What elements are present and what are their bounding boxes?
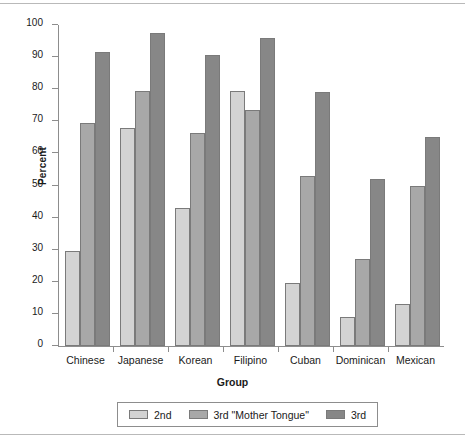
- bar-group: [395, 25, 440, 346]
- y-axis-tick-label: 10: [32, 306, 43, 317]
- y-axis-tick: 40: [52, 217, 58, 218]
- legend-item: 3rd: [326, 409, 366, 421]
- y-axis-tick: 60: [52, 152, 58, 153]
- chart-legend: 2nd3rd "Mother Tongue"3rd: [117, 402, 378, 427]
- bar-group: [340, 25, 385, 346]
- bar: [395, 304, 410, 346]
- x-axis-label: Group: [0, 376, 465, 388]
- legend-swatch-icon: [189, 410, 208, 419]
- legend-label: 3rd: [351, 409, 366, 421]
- bar: [425, 137, 440, 346]
- bar: [80, 123, 95, 346]
- legend-label: 3rd "Mother Tongue": [214, 409, 309, 421]
- x-axis-category-label: Japanese: [113, 354, 168, 366]
- y-axis-tick-label: 80: [32, 81, 43, 92]
- bar: [340, 317, 355, 346]
- y-axis-tick: 80: [52, 88, 58, 89]
- plot-area: 0102030405060708090100: [58, 25, 443, 346]
- chart-page: Percent 0102030405060708090100 Group 2nd…: [0, 0, 465, 444]
- bottom-divider: [0, 434, 465, 435]
- y-axis-tick-label: 60: [32, 145, 43, 156]
- bar: [150, 33, 165, 346]
- bar: [230, 91, 245, 346]
- bar: [120, 128, 135, 346]
- bar: [175, 208, 190, 346]
- bar-group: [175, 25, 220, 346]
- x-axis-tick: [113, 347, 114, 352]
- y-axis-tick: 100: [52, 24, 58, 25]
- bar: [65, 251, 80, 346]
- bar: [190, 133, 205, 346]
- y-axis-tick: 70: [52, 120, 58, 121]
- x-axis-line: [58, 346, 444, 347]
- x-axis-tick: [223, 347, 224, 352]
- bar: [245, 110, 260, 346]
- x-axis-category-label: Chinese: [58, 354, 113, 366]
- y-axis-tick-label: 90: [32, 49, 43, 60]
- y-axis-tick-label: 100: [26, 17, 43, 28]
- legend-item: 2nd: [129, 409, 172, 421]
- x-axis-tick: [168, 347, 169, 352]
- x-axis-category-label: Mexican: [388, 354, 443, 366]
- y-axis-tick-label: 30: [32, 242, 43, 253]
- x-axis-tick: [388, 347, 389, 352]
- bar-group: [285, 25, 330, 346]
- bar: [355, 259, 370, 346]
- bar: [260, 38, 275, 346]
- bar: [95, 52, 110, 346]
- y-axis-label: Percent: [37, 131, 53, 201]
- bar: [410, 186, 425, 347]
- top-divider: [0, 3, 465, 4]
- bar: [370, 179, 385, 346]
- bar: [135, 91, 150, 346]
- legend-label: 2nd: [154, 409, 172, 421]
- y-axis-tick: 10: [52, 313, 58, 314]
- y-axis-tick: 0: [52, 345, 58, 346]
- x-axis-tick: [333, 347, 334, 352]
- y-axis-tick-label: 50: [32, 178, 43, 189]
- grouped-bar-chart: Percent 0102030405060708090100 Group 2nd…: [0, 8, 465, 428]
- y-axis-tick: 20: [52, 281, 58, 282]
- y-axis-tick-label: 40: [32, 210, 43, 221]
- legend-item: 3rd "Mother Tongue": [189, 409, 309, 421]
- bar: [205, 55, 220, 346]
- y-axis-tick-label: 70: [32, 113, 43, 124]
- x-axis-category-label: Korean: [168, 354, 223, 366]
- bar-group: [230, 25, 275, 346]
- y-axis-tick: 90: [52, 56, 58, 57]
- x-axis-category-label: Dominican: [333, 354, 388, 366]
- x-axis-tick: [278, 347, 279, 352]
- y-axis-tick: 50: [52, 185, 58, 186]
- bar: [285, 283, 300, 346]
- legend-swatch-icon: [129, 410, 148, 419]
- legend-swatch-icon: [326, 410, 345, 419]
- bar-group: [65, 25, 110, 346]
- y-axis-tick: 30: [52, 249, 58, 250]
- x-axis-category-label: Filipino: [223, 354, 278, 366]
- bar: [315, 92, 330, 346]
- y-axis-tick-label: 0: [37, 338, 43, 349]
- x-axis-category-label: Cuban: [278, 354, 333, 366]
- bar: [300, 176, 315, 346]
- bar-group: [120, 25, 165, 346]
- y-axis-tick-label: 20: [32, 274, 43, 285]
